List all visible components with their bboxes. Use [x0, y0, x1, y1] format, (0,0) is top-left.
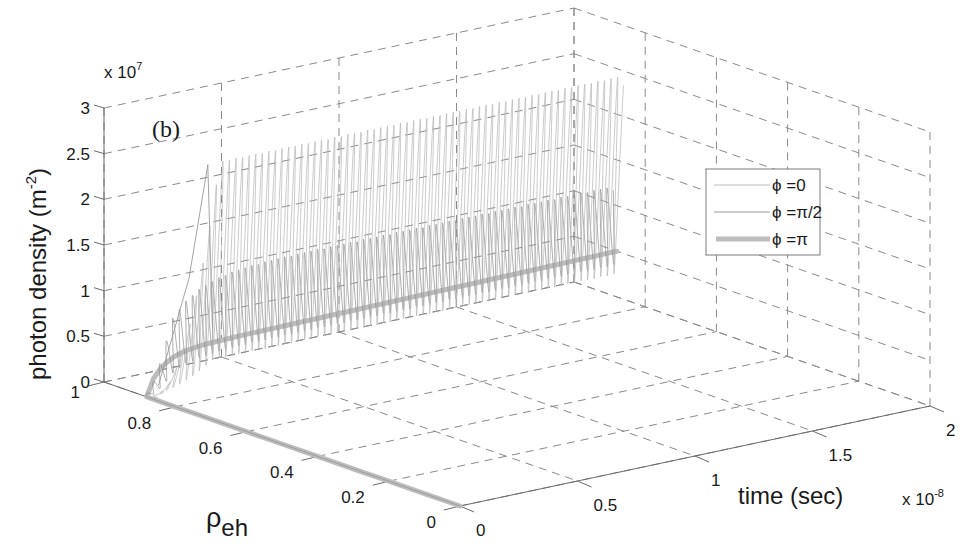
- z-tick: [94, 333, 104, 336]
- time-tick-label: 1: [711, 471, 720, 490]
- chart-3d-photon-density: 00.511.522.53 10.80.60.40.20 00.511.52 x…: [0, 0, 972, 560]
- grid-line: [222, 357, 578, 481]
- trace-phi-pi-half: [146, 188, 614, 506]
- z-tick: [94, 151, 104, 154]
- legend-label-phi-0: ϕ =0: [772, 176, 806, 195]
- grid-line: [457, 307, 813, 431]
- time-axis-ticks: 00.511.52: [476, 421, 955, 540]
- rho-tick-label: 0.8: [128, 414, 152, 433]
- z-tick-label: 3: [81, 99, 90, 118]
- time-tick: [813, 431, 827, 437]
- time-axis-label: time (sec): [738, 482, 843, 509]
- z-tick: [94, 288, 104, 291]
- z-tick: [94, 196, 104, 199]
- rho-axis-label: ρeh: [206, 503, 248, 541]
- grid-line: [574, 8, 930, 132]
- grid-line: [574, 282, 930, 406]
- rho-tick: [88, 382, 104, 386]
- z-tick-label: 1: [81, 282, 90, 301]
- rho-tick-label: 0: [427, 513, 436, 532]
- rho-tick-label: 1: [71, 383, 80, 402]
- z-tick-label: 2: [81, 190, 90, 209]
- z-axis-label: photon density (m-2): [22, 168, 51, 380]
- z-tick-label: 0: [81, 373, 90, 392]
- z-tick-label: 2.5: [66, 145, 90, 164]
- z-axis-ticks: 00.511.522.53: [66, 99, 90, 392]
- z-tick: [94, 105, 104, 108]
- time-tick-label: 0.5: [594, 496, 618, 515]
- grid-line: [389, 381, 859, 481]
- z-tick-label: 0.5: [66, 327, 90, 346]
- legend-label-phi-pi-half: ϕ =π/2: [772, 203, 822, 222]
- rho-tick-label: 0.4: [270, 463, 294, 482]
- trace-phi-0: [147, 77, 624, 398]
- time-axis-multiplier: x 10-8: [902, 487, 944, 509]
- time-tick: [578, 481, 592, 487]
- rho-tick-label: 0.2: [341, 488, 365, 507]
- rho-tick-label: 0.6: [199, 439, 223, 458]
- z-tick-label: 1.5: [66, 236, 90, 255]
- rho-axis-ticks: 10.80.60.40.20: [71, 383, 436, 532]
- z-tick: [94, 242, 104, 245]
- grid-line: [246, 332, 716, 432]
- time-tick-label: 0: [476, 521, 485, 540]
- time-tick: [695, 456, 709, 462]
- time-tick-label: 2: [946, 421, 955, 440]
- legend-label-phi-pi: ϕ =π: [772, 230, 808, 249]
- z-tick: [94, 379, 104, 382]
- time-tick: [930, 406, 944, 412]
- grid-line: [339, 332, 695, 456]
- grid-line: [318, 356, 788, 456]
- trace-phi-pi: [147, 251, 617, 506]
- panel-label: (b): [152, 116, 180, 142]
- z-axis-multiplier: x 107: [104, 60, 142, 82]
- legend: ϕ =0 ϕ =π/2 ϕ =π: [706, 169, 822, 255]
- time-tick-label: 1.5: [829, 446, 853, 465]
- grid-line: [574, 54, 930, 178]
